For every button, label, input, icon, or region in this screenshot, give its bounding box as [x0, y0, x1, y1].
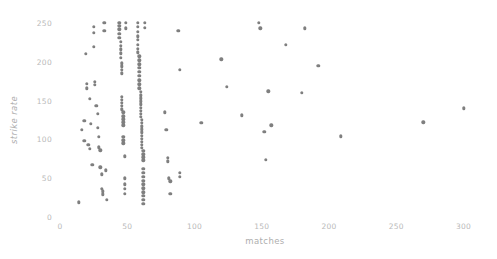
scatter-point	[178, 171, 181, 174]
scatter-point	[122, 124, 125, 127]
scatter-point	[138, 62, 141, 65]
scatter-point	[300, 91, 303, 94]
scatter-point	[166, 159, 169, 162]
scatter-point	[119, 56, 122, 59]
scatter-point	[138, 55, 141, 58]
scatter-point	[142, 202, 145, 205]
x-axis-tick-label: 150	[254, 222, 269, 231]
scatter-point	[142, 187, 145, 190]
scatter-point	[123, 192, 126, 195]
scatter-point	[142, 198, 145, 201]
scatter-point	[143, 21, 146, 24]
x-axis-label: matches	[245, 236, 284, 246]
scatter-point	[200, 121, 203, 124]
scatter-point	[117, 36, 120, 39]
scatter-plot-figure: strike rate matches 05010015020025005010…	[0, 0, 497, 259]
scatter-point	[119, 52, 122, 55]
scatter-point	[101, 193, 104, 196]
scatter-point	[88, 147, 91, 150]
scatter-point	[259, 27, 262, 30]
scatter-point	[143, 26, 146, 29]
scatter-point	[123, 183, 126, 186]
scatter-point	[93, 83, 96, 86]
scatter-point	[317, 64, 320, 67]
scatter-point	[92, 31, 95, 34]
scatter-point	[100, 173, 103, 176]
scatter-point	[339, 135, 342, 138]
scatter-point	[138, 83, 141, 86]
scatter-point	[142, 194, 145, 197]
scatter-point	[123, 176, 126, 179]
x-axis-tick-label: 100	[187, 222, 202, 231]
scatter-point	[123, 155, 126, 158]
scatter-point	[178, 68, 181, 71]
scatter-point	[142, 183, 145, 186]
scatter-point	[97, 135, 100, 138]
scatter-point	[303, 27, 306, 30]
scatter-point	[257, 21, 260, 24]
scatter-point	[138, 59, 141, 62]
scatter-point	[117, 28, 120, 31]
scatter-point	[124, 27, 127, 30]
scatter-point	[267, 90, 270, 93]
scatter-point	[84, 52, 87, 55]
scatter-point	[96, 126, 99, 129]
scatter-point	[462, 107, 465, 110]
x-axis-tick-label: 0	[57, 222, 62, 231]
scatter-point	[92, 45, 95, 48]
scatter-point	[284, 43, 287, 46]
scatter-point	[123, 187, 126, 190]
scatter-point	[169, 180, 172, 183]
y-axis-tick-label: 250	[37, 19, 52, 28]
scatter-point	[225, 85, 228, 88]
scatter-point	[124, 21, 127, 24]
scatter-point	[105, 198, 108, 201]
y-axis-tick-label: 0	[47, 213, 52, 222]
scatter-point	[138, 70, 141, 73]
scatter-point	[99, 166, 102, 169]
scatter-point	[120, 68, 123, 71]
scatter-point	[88, 97, 91, 100]
x-axis-tick-label: 300	[456, 222, 471, 231]
scatter-point	[136, 51, 139, 54]
scatter-point	[91, 163, 94, 166]
scatter-point	[136, 43, 139, 46]
scatter-point	[136, 21, 139, 24]
scatter-point	[163, 111, 166, 114]
scatter-point	[169, 192, 172, 195]
scatter-point	[263, 130, 266, 133]
x-axis-tick-label: 250	[389, 222, 404, 231]
scatter-point	[104, 169, 107, 172]
scatter-point	[80, 128, 83, 131]
scatter-point	[95, 104, 98, 107]
scatter-point	[89, 122, 92, 125]
y-axis-tick-label: 200	[37, 57, 52, 66]
scatter-point	[142, 167, 145, 170]
scatter-point	[138, 66, 141, 69]
scatter-point	[142, 190, 145, 193]
scatter-point	[136, 47, 139, 50]
scatter-point	[138, 86, 141, 89]
scatter-point	[136, 34, 139, 37]
scatter-point	[119, 48, 122, 51]
scatter-point	[220, 58, 223, 61]
scatter-point	[119, 40, 122, 43]
y-axis-label: strike rate	[9, 96, 19, 144]
scatter-point	[85, 82, 88, 85]
scatter-point	[165, 128, 168, 131]
scatter-point	[142, 171, 145, 174]
scatter-point	[178, 175, 181, 178]
scatter-point	[103, 21, 106, 24]
scatter-point	[177, 29, 180, 32]
scatter-point	[240, 114, 243, 117]
scatter-point	[96, 112, 99, 115]
scatter-point	[142, 179, 145, 182]
scatter-point	[119, 44, 122, 47]
scatter-point	[85, 86, 88, 89]
scatter-point	[269, 124, 272, 127]
scatter-point	[117, 32, 120, 35]
scatter-point	[264, 158, 267, 161]
scatter-point	[83, 139, 86, 142]
scatter-point	[77, 201, 80, 204]
scatter-point	[120, 72, 123, 75]
